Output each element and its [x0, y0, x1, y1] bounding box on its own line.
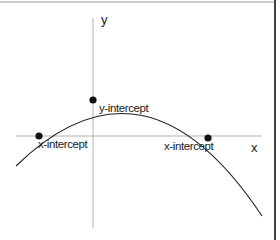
parabola-curve — [16, 113, 262, 216]
x-axis-label: x — [251, 140, 258, 155]
y-axis-label: y — [101, 12, 108, 27]
x-intercept-right-label: x-intercept — [164, 140, 213, 152]
graph-canvas — [0, 0, 280, 240]
y-intercept-label: y-intercept — [99, 102, 148, 114]
x-intercept-left-label: x-intercept — [38, 138, 87, 150]
y-intercept-point — [89, 96, 96, 103]
